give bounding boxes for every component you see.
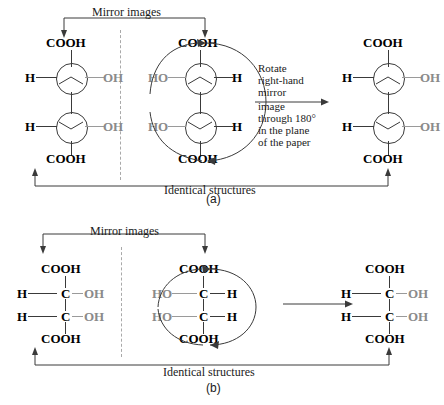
b-right-c1-oh: OH — [408, 287, 428, 300]
b-right-c2-bond-left — [352, 316, 381, 317]
panel-a: Mirror images COOH H OH H OH COOH COOH H… — [0, 0, 444, 205]
a-right-c1-wedges — [373, 63, 403, 93]
a-left-c1-wedges — [56, 63, 86, 93]
rotate-line-4: through 180° — [258, 112, 316, 124]
a-right-c2-wedges — [373, 112, 403, 142]
mirror-plane-line-b — [121, 247, 122, 357]
b-right-c1-bond-right — [396, 293, 407, 294]
identical-structures-label-b: Identical structures — [163, 366, 255, 379]
b-left-c1-oh: OH — [84, 287, 104, 300]
b-left-top-cooh: COOH — [41, 262, 81, 275]
a-left-c2-bond-left — [36, 126, 57, 127]
b-right-c2-h: H — [341, 310, 351, 323]
b-right-c2-oh: OH — [408, 310, 428, 323]
rotate-line-1: right-hand — [258, 74, 304, 86]
b-right-top-cooh: COOH — [365, 262, 405, 275]
a-left-top-cooh: COOH — [46, 36, 86, 49]
b-left-c2-h: H — [17, 310, 27, 323]
a-left-c1-oh: OH — [103, 71, 123, 84]
a-right-top-cooh: COOH — [363, 36, 403, 49]
a-right-c2-bond-left — [353, 126, 374, 127]
b-right-c2-bond-right — [396, 316, 407, 317]
b-right-c1-bond-left — [352, 293, 381, 294]
rotate-line-5: in the plane — [258, 124, 309, 136]
b-left-c2-bond-right — [72, 316, 83, 317]
a-rotation-loop-arrows — [140, 34, 270, 169]
a-left-bottom-cooh: COOH — [46, 152, 86, 165]
mirror-bracket-b — [0, 219, 444, 265]
a-left-c2-wedges — [56, 112, 86, 142]
b-right-bottom-cooh: COOH — [365, 332, 405, 345]
panel-b-caption: (b) — [206, 381, 221, 395]
a-right-c1-oh: OH — [420, 71, 440, 84]
a-left-c2-bond-right — [85, 126, 104, 127]
a-left-c2-h: H — [25, 120, 35, 133]
a-right-bond-c1-c2 — [388, 92, 389, 114]
a-right-c1-h: H — [342, 71, 352, 84]
a-right-c1-bond-left — [353, 77, 374, 78]
a-left-c1-bond-left — [36, 77, 57, 78]
a-left-c1-bond-right — [85, 77, 104, 78]
b-left-bottom-cooh: COOH — [41, 332, 81, 345]
b-left-c1-h: H — [17, 287, 27, 300]
a-right-c1-bond-right — [402, 77, 421, 78]
b-left-c2-oh: OH — [84, 310, 104, 323]
a-right-c2-oh: OH — [420, 120, 440, 133]
a-left-c1-h: H — [25, 71, 35, 84]
b-left-c1-bond-left — [28, 293, 57, 294]
b-rotation-loop-arrows — [146, 261, 266, 353]
b-left-c1-bond-right — [72, 293, 83, 294]
panel-b: Mirror images COOH C H OH C H OH COOH CO… — [0, 205, 444, 405]
a-right-c2-h: H — [342, 120, 352, 133]
mirror-images-label-b: Mirror images — [90, 225, 159, 238]
a-left-bond-c1-c2 — [71, 92, 72, 114]
a-right-bottom-cooh: COOH — [363, 152, 403, 165]
b-left-c2-bond-left — [28, 316, 57, 317]
b-right-c1-h: H — [341, 287, 351, 300]
mirror-plane-line-a — [120, 30, 121, 180]
a-right-c2-bond-right — [402, 126, 421, 127]
rotate-line-6: of the paper — [258, 136, 311, 148]
mirror-images-label-a: Mirror images — [92, 6, 161, 19]
a-left-c2-oh: OH — [103, 120, 123, 133]
a-transform-arrow — [255, 96, 333, 108]
rotate-line-0: Rotate — [258, 62, 287, 74]
panel-a-caption: (a) — [206, 192, 221, 206]
